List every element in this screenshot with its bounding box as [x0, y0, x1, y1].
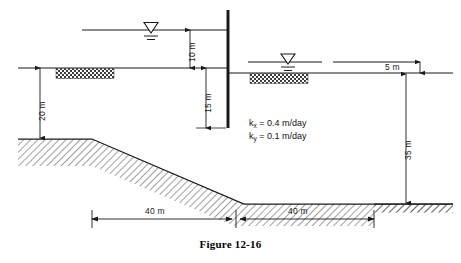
kx-value: = 0.4 m/day	[259, 118, 306, 128]
water-table-triangle-left	[144, 23, 158, 40]
dimension-label-20m: 20 m	[37, 101, 47, 121]
figure-canvas: 10 m 15 m 20 m 5 m 35 m 40 m 40 m kx = 0…	[0, 0, 461, 263]
dimension-label-40m-left: 40 m	[145, 206, 165, 216]
right-shelf	[374, 204, 453, 213]
figure-caption: Figure 12-16	[0, 238, 461, 250]
dimension-label-40m-right: 40 m	[288, 206, 308, 216]
dimension-label-35m: 35 m	[403, 140, 413, 160]
seepage-diagram	[0, 0, 461, 263]
dimension-label-5m: 5 m	[385, 62, 400, 72]
dimension-label-10m: 10 m	[187, 42, 197, 62]
permeability-annotation: kx = 0.4 m/day ky = 0.1 m/day	[249, 118, 307, 144]
left-filter-blanket	[56, 69, 114, 79]
permeability-kx-line: kx = 0.4 m/day	[249, 118, 307, 131]
permeability-ky-line: ky = 0.1 m/day	[249, 131, 307, 144]
kx-subscript: x	[254, 122, 257, 129]
dimension-label-15m: 15 m	[203, 93, 213, 113]
ky-value: = 0.1 m/day	[259, 131, 306, 141]
right-filter-blanket	[250, 74, 308, 84]
ky-subscript: y	[254, 135, 257, 142]
